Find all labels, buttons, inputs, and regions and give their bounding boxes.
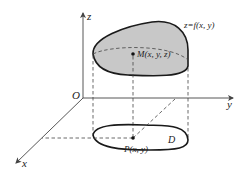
point-p-label: P(x, y) bbox=[123, 144, 148, 154]
p-to-y-axis-dash bbox=[133, 99, 175, 138]
z-axis-label: z bbox=[86, 10, 92, 22]
surface-projection-diagram: z y x O z=f(x, y) M(x, y, z) P(x, y) D bbox=[0, 0, 243, 179]
x-axis-label: x bbox=[21, 157, 27, 169]
region-d-label: D bbox=[167, 134, 176, 145]
x-axis bbox=[16, 98, 83, 163]
point-m bbox=[131, 52, 135, 56]
point-p bbox=[131, 136, 135, 140]
origin-label: O bbox=[72, 89, 80, 101]
y-axis-label: y bbox=[226, 98, 232, 110]
point-m-label: M(x, y, z) bbox=[136, 49, 171, 59]
surface-equation-label: z=f(x, y) bbox=[183, 20, 215, 30]
